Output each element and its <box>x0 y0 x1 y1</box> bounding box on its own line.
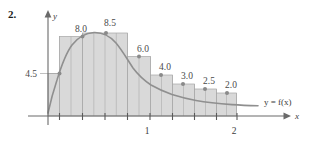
y-axis-label: y <box>52 11 57 21</box>
value-label-3-0: 3.0 <box>181 71 193 81</box>
x-axis-label: x <box>294 111 299 121</box>
function-label: y = f(x) <box>264 97 292 107</box>
value-label-8-0: 8.0 <box>75 24 87 34</box>
point-3-0 <box>181 82 185 86</box>
point-8-0 <box>81 35 85 39</box>
value-label-4-0: 4.0 <box>159 62 171 72</box>
riemann-sum-chart: y x 1 2 4.5 8.0 8.5 6.0 4.0 3.0 2 <box>0 0 316 150</box>
value-label-4-5: 4.5 <box>25 69 37 79</box>
problem-number: 2. <box>8 8 16 20</box>
point-4-0 <box>159 73 163 77</box>
x-tick-label-2: 2 <box>232 126 237 136</box>
point-2-5 <box>203 87 207 91</box>
point-4-5 <box>58 72 62 76</box>
value-label-2-0: 2.0 <box>225 80 237 90</box>
point-2-0 <box>225 91 229 95</box>
figure-container: 2. <box>0 0 316 150</box>
value-label-2-5: 2.5 <box>203 76 215 86</box>
point-6-0 <box>137 55 141 59</box>
value-label-8-5: 8.5 <box>104 18 116 28</box>
point-8-5 <box>104 31 108 35</box>
x-tick-label-1: 1 <box>145 126 150 136</box>
value-label-6-0: 6.0 <box>137 44 149 54</box>
